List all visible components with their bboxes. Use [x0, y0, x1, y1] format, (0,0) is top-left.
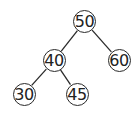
tree-node-label: 50	[75, 14, 94, 30]
tree-node-45: 45	[66, 83, 89, 106]
tree-edge-40-45	[61, 70, 71, 85]
tree-node-label: 40	[44, 53, 63, 69]
tree-node-40: 40	[43, 49, 66, 72]
tree-edge-50-40	[61, 31, 77, 52]
tree-node-label: 60	[109, 53, 128, 69]
tree-edge-40-30	[32, 69, 47, 85]
tree-diagram: 5040603045	[0, 0, 136, 114]
tree-node-30: 30	[13, 83, 36, 106]
tree-edge-50-60	[92, 30, 111, 52]
tree-node-50: 50	[73, 10, 96, 33]
tree-node-60: 60	[108, 49, 131, 72]
tree-node-label: 45	[67, 87, 86, 103]
tree-node-label: 30	[14, 87, 33, 103]
